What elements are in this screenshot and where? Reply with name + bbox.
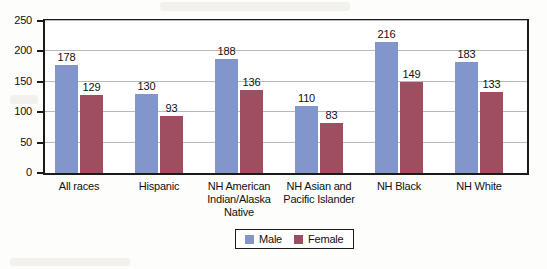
plot-area xyxy=(43,19,529,175)
bar-female-4 xyxy=(400,82,423,173)
bar-female-3 xyxy=(320,123,343,173)
plot-inner xyxy=(45,21,527,173)
gridline-250 xyxy=(45,20,527,21)
bar-value-male-4: 216 xyxy=(370,28,404,40)
chart-legend: MaleFemale xyxy=(235,229,354,249)
bar-female-0 xyxy=(80,95,103,173)
legend-entry-male[interactable]: Male xyxy=(245,233,282,245)
y-tick-label-150: 150 xyxy=(2,75,32,87)
legend-swatch-female-icon xyxy=(294,235,303,244)
scan-artifact xyxy=(10,95,38,104)
y-tick-label-250: 250 xyxy=(2,14,32,26)
bar-value-female-2: 136 xyxy=(235,76,269,88)
bar-female-2 xyxy=(240,90,263,173)
bar-value-male-2: 188 xyxy=(210,45,244,57)
bar-value-female-0: 129 xyxy=(75,81,109,93)
y-tick-label-200: 200 xyxy=(2,44,32,56)
bar-male-4 xyxy=(375,42,398,173)
y-tick-label-0: 0 xyxy=(2,166,32,178)
scan-artifact xyxy=(160,2,350,11)
bar-value-male-1: 130 xyxy=(130,80,164,92)
y-tick-label-50: 50 xyxy=(2,136,32,148)
bar-value-male-5: 183 xyxy=(450,48,484,60)
chart-page: 050100150200250 178129130931881361108321… xyxy=(0,0,547,269)
bar-value-female-1: 93 xyxy=(155,102,189,114)
bar-value-female-4: 149 xyxy=(395,68,429,80)
legend-swatch-male-icon xyxy=(245,235,254,244)
legend-label-female: Female xyxy=(308,233,343,245)
category-label-5: NH White xyxy=(424,180,534,193)
bar-value-male-0: 178 xyxy=(50,51,84,63)
legend-entry-female[interactable]: Female xyxy=(294,233,343,245)
y-tick-label-100: 100 xyxy=(2,105,32,117)
bar-value-female-3: 83 xyxy=(315,109,349,121)
bar-value-male-3: 110 xyxy=(290,92,324,104)
scan-artifact xyxy=(10,258,130,266)
bar-female-5 xyxy=(480,92,503,173)
bar-value-female-5: 133 xyxy=(475,78,509,90)
bar-female-1 xyxy=(160,116,183,173)
legend-label-male: Male xyxy=(259,233,282,245)
